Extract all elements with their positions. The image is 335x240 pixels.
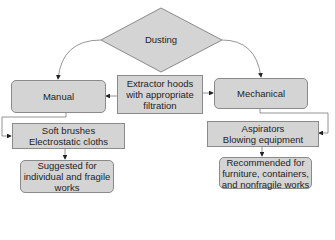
extractor-hoods-node: Extractor hoods with appropriate filtrat… [117, 75, 203, 114]
mechanical-tools-label: Aspirators Blowing equipment [223, 123, 303, 145]
mechanical-use-node: Recommended for furniture, containers, a… [219, 157, 312, 189]
manual-label: Manual [43, 91, 74, 102]
mechanical-node: Mechanical [214, 78, 308, 109]
mechanical-label: Mechanical [237, 88, 285, 99]
connector-dusting-to-manual [58, 40, 101, 79]
mechanical-tools-node: Aspirators Blowing equipment [207, 121, 319, 147]
manual-tools-label: Soft brushes Electrostatic cloths [29, 125, 108, 147]
extractor-hoods-label: Extractor hoods with appropriate filtrat… [126, 78, 194, 111]
manual-node: Manual [11, 80, 106, 113]
mechanical-use-label: Recommended for furniture, containers, a… [222, 157, 310, 190]
manual-use-node: Suggested for individual and fragile wor… [20, 160, 114, 193]
manual-tools-node: Soft brushes Electrostatic cloths [12, 123, 125, 149]
dusting-label: Dusting [121, 34, 201, 45]
connector-dusting-to-mechanical [222, 40, 261, 77]
manual-use-label: Suggested for individual and fragile wor… [24, 160, 111, 193]
